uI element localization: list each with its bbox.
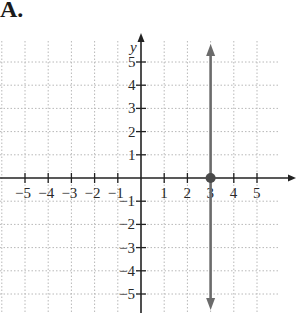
x-tick-label: 2 [183,185,191,201]
y-tick-label: −3 [119,240,135,256]
y-tick-label: 1 [128,147,136,163]
y-tick-label: 3 [128,100,136,116]
line-arrow-up-icon [206,44,215,56]
y-tick-label: −5 [119,286,135,302]
y-axis-arrow-icon [138,33,145,42]
x-tick-label: 4 [230,185,238,201]
x-tick-label: 1 [160,185,168,201]
y-tick-label: 4 [128,77,136,93]
y-tick-label: −4 [119,263,135,279]
y-tick-label: −1 [119,193,135,209]
y-tick-label: −2 [119,216,135,232]
grid [0,41,280,313]
y-axis-label: y [128,39,137,55]
coordinate-plane: y−5−4−3−2−112345−5−4−3−2−112345 [0,0,296,327]
line-arrow-down-icon [206,298,215,310]
x-tick-label: −4 [38,185,54,201]
x-tick-label: 5 [253,185,261,201]
x-tick-label: −3 [61,185,77,201]
x-axis-arrow-icon [288,175,296,182]
x-intercept-point [206,173,216,183]
y-tick-label: 5 [128,54,136,70]
x-tick-label: −5 [15,185,31,201]
y-tick-label: 2 [128,124,136,140]
x-tick-label: −2 [85,185,101,201]
